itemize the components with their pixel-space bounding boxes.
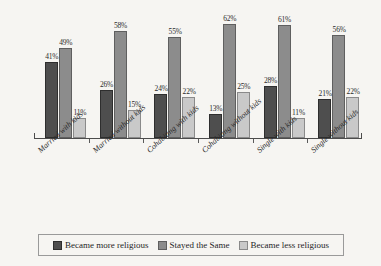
x-axis-tick bbox=[307, 139, 308, 143]
legend-swatch-icon-more-religious bbox=[53, 241, 62, 250]
plot-area: 41%49%11%26%58%15%24%55%22%13%62%25%28%6… bbox=[34, 8, 362, 138]
legend-item-became-less-religious: Became less religious bbox=[239, 240, 329, 250]
bar-group: 28%61%11% bbox=[264, 8, 305, 138]
x-axis-tick bbox=[89, 139, 90, 143]
x-axis-tick bbox=[198, 139, 199, 143]
bar-value-label: 25% bbox=[231, 82, 257, 91]
x-axis-right-cap bbox=[361, 133, 362, 139]
bar-value-label: 22% bbox=[176, 87, 202, 96]
bar-chart: 41%49%11%26%58%15%24%55%22%13%62%25%28%6… bbox=[0, 0, 381, 266]
legend-label-more-religious: Became more religious bbox=[65, 240, 148, 250]
bar-value-label: 22% bbox=[340, 87, 366, 96]
x-axis-left-cap bbox=[34, 133, 35, 139]
x-axis-tick bbox=[253, 139, 254, 143]
bar-value-label: 49% bbox=[53, 38, 79, 47]
bar-value-label: 56% bbox=[326, 25, 352, 34]
legend-item-became-more-religious: Became more religious bbox=[53, 240, 148, 250]
legend-item-stayed-the-same: Stayed the Same bbox=[158, 240, 230, 250]
legend-label-less-religious: Became less religious bbox=[251, 240, 329, 250]
bar-value-label: 62% bbox=[217, 14, 243, 23]
bar bbox=[45, 62, 58, 138]
bar-value-label: 55% bbox=[162, 27, 188, 36]
bar-value-label: 61% bbox=[272, 15, 298, 24]
legend-swatch-icon-stayed-same bbox=[158, 241, 167, 250]
legend-label-stayed-same: Stayed the Same bbox=[170, 240, 230, 250]
legend-swatch-icon-less-religious bbox=[239, 241, 248, 250]
x-axis-tick bbox=[143, 139, 144, 143]
bar-value-label: 58% bbox=[108, 21, 134, 30]
chart-legend: Became more religious Stayed the Same Be… bbox=[38, 234, 344, 256]
